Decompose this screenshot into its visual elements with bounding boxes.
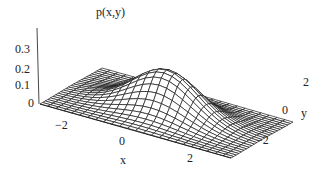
x-axis-label: x xyxy=(120,154,126,166)
z-tick-label: 0.2 xyxy=(15,63,30,75)
y-axis-label: y xyxy=(301,107,307,119)
surface-plot xyxy=(0,0,322,174)
z-tick-label: 0.1 xyxy=(15,79,30,91)
chart-title: p(x,y) xyxy=(96,6,125,18)
y-tick-label: 0 xyxy=(282,104,288,116)
z-tick-label: 0 xyxy=(28,97,34,109)
y-tick-label: −2 xyxy=(256,134,269,146)
z-tick-label: 0.3 xyxy=(15,43,30,55)
y-tick-label: 2 xyxy=(303,76,309,88)
x-tick-label: 2 xyxy=(187,152,193,164)
x-tick-label: 0 xyxy=(119,135,125,147)
z-axis-line xyxy=(37,28,39,104)
x-tick-label: −2 xyxy=(55,119,68,131)
